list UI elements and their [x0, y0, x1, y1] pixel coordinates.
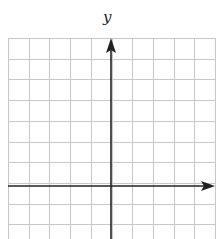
- y-axis-label: y: [103, 8, 111, 26]
- grid-svg: [0, 0, 220, 239]
